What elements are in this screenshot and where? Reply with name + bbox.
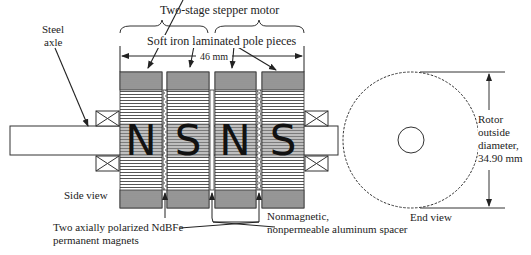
rotor-label-2: outside <box>478 126 510 139</box>
end-view-rotor <box>343 72 479 208</box>
pole-letter: S <box>175 116 202 165</box>
end-view-label: End view <box>410 211 452 224</box>
spacer-label-2: nonpermeable aluminum spacer <box>267 223 408 236</box>
magnets-label-1: Two axially polarized NdBFe <box>53 221 183 234</box>
pole-letter: S <box>270 116 297 165</box>
length-label: 46 mm <box>199 50 229 63</box>
rotor-label-3: diameter, <box>478 139 519 152</box>
magnets-label-2: permanent magnets <box>53 234 139 247</box>
pole-letter: N <box>219 116 250 165</box>
steel-axle-label-2: axle <box>44 36 62 49</box>
rotor-label-1: Rotor <box>478 113 503 126</box>
aluminum-spacer <box>210 90 214 190</box>
side-view-label: Side view <box>64 189 108 202</box>
steel-axle-label-1: Steel <box>42 23 64 36</box>
pole-pieces-label: Soft iron laminated pole pieces <box>147 35 296 48</box>
stage-braces <box>120 20 304 33</box>
pole-letter: N <box>125 116 156 165</box>
rotor-label-4: 34.90 mm <box>478 152 523 165</box>
axle-leader <box>55 48 88 126</box>
spacer-label-1: Nonmagnetic, <box>267 210 329 223</box>
diagram-title: Two-stage stepper motor <box>160 4 270 17</box>
